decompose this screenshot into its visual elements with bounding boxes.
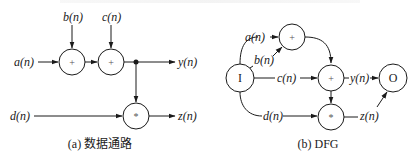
dfg-adder-2-op: + [328, 73, 334, 84]
output-label-z: z(n) [177, 109, 197, 123]
input-node-label: I [238, 71, 242, 85]
edge-label-z: z(n) [359, 109, 379, 123]
edge-label-a: a(n) [245, 30, 265, 44]
adder-1-op: + [69, 57, 75, 68]
multiplier-op: * [134, 111, 139, 122]
dfg-multiplier-op: * [329, 112, 334, 123]
edge-label-y: y(n) [349, 71, 369, 85]
edge-label-b: b(n) [254, 53, 274, 67]
input-label-c: c(n) [102, 10, 121, 24]
edge-label-c: c(n) [277, 71, 296, 85]
caption-b: (b) DFG [298, 137, 339, 151]
edge-I-b-stub [250, 66, 253, 68]
adder-2-op: + [108, 57, 114, 68]
dfg-adder-1-op: + [289, 32, 295, 43]
output-node-label: O [389, 71, 398, 85]
edge-b-to-add1 [273, 47, 282, 56]
edge-add1-to-add2 [305, 37, 331, 63]
dfg-diagram: I a(n) b(n) + c(n) + y(n) d(n) * [226, 24, 407, 151]
caption-a: (a) 数据通路 [68, 136, 132, 151]
datapath-diagram: a(n) b(n) + c(n) + y(n) d(n) * z(n) (a) … [10, 10, 197, 151]
input-label-d: d(n) [10, 109, 30, 123]
input-label-b: b(n) [63, 10, 83, 24]
edge-I-d-curve [240, 92, 262, 116]
diagram-canvas: a(n) b(n) + c(n) + y(n) d(n) * z(n) (a) … [0, 0, 419, 157]
edge-z-to-O [377, 92, 387, 107]
edge-label-d: d(n) [263, 109, 283, 123]
input-label-a: a(n) [14, 55, 34, 69]
output-label-y: y(n) [177, 55, 197, 69]
